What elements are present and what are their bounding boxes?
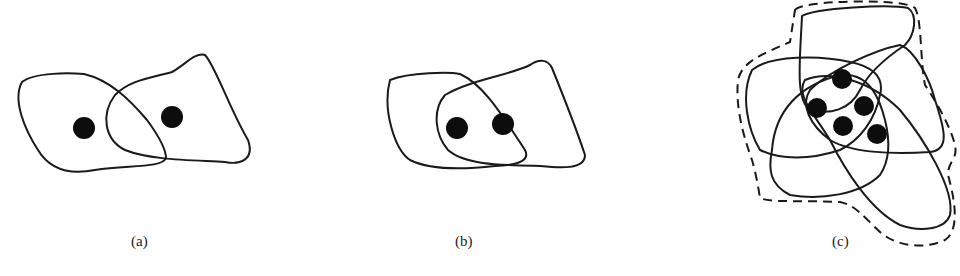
point [446, 117, 468, 139]
panel-c [737, 1, 955, 245]
panel-a [18, 55, 249, 172]
point [161, 106, 183, 128]
point [807, 98, 827, 118]
point [867, 124, 887, 144]
point [832, 69, 852, 89]
panel-b [388, 61, 585, 169]
region-b-right [437, 61, 585, 168]
point [73, 117, 95, 139]
point [833, 116, 853, 136]
panel-b-label: (b) [455, 233, 473, 250]
point [492, 113, 514, 135]
panel-c-label: (c) [832, 233, 849, 250]
point [854, 96, 874, 116]
panel-a-label: (a) [131, 233, 148, 250]
